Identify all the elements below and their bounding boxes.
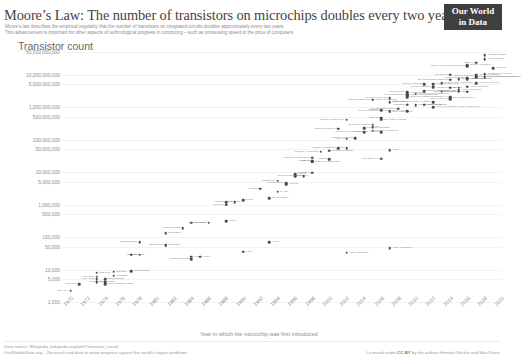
data-point[interactable] xyxy=(389,101,392,104)
data-point[interactable] xyxy=(389,110,392,113)
y-axis-tick-labels: 50,000,000,00010,000,000,0005,000,000,00… xyxy=(0,52,60,302)
data-point[interactable] xyxy=(233,201,236,204)
y-axis-tick-label: 5,000,000 xyxy=(38,179,60,184)
data-point[interactable] xyxy=(181,227,184,230)
data-point[interactable] xyxy=(311,172,314,175)
gridline xyxy=(62,237,502,238)
data-point[interactable] xyxy=(78,283,81,286)
data-point[interactable] xyxy=(449,97,452,100)
data-point[interactable] xyxy=(389,247,392,250)
data-point[interactable] xyxy=(302,175,305,178)
y-axis-tick-label: 100,000 xyxy=(42,235,60,240)
data-point-label: Itanium 2 Madison 6M xyxy=(320,118,345,121)
data-point[interactable] xyxy=(380,117,383,120)
gridline xyxy=(62,52,502,53)
gridline xyxy=(62,140,502,141)
data-point[interactable] xyxy=(328,150,331,153)
data-point[interactable] xyxy=(414,104,417,107)
data-point-label: Core i7 Ivy Bridge xyxy=(427,103,447,106)
data-point[interactable] xyxy=(138,241,141,244)
page-title: Moore’s Law: The number of transistors o… xyxy=(4,8,440,23)
data-point[interactable] xyxy=(371,126,374,129)
data-point[interactable] xyxy=(268,197,271,200)
data-point[interactable] xyxy=(389,149,392,152)
data-point[interactable] xyxy=(242,199,245,202)
data-point[interactable] xyxy=(164,232,167,235)
data-point[interactable] xyxy=(207,222,210,225)
data-point[interactable] xyxy=(371,123,374,126)
data-point[interactable] xyxy=(104,278,107,281)
data-point[interactable] xyxy=(311,157,314,160)
data-point[interactable] xyxy=(164,244,167,247)
data-point[interactable] xyxy=(466,78,469,81)
data-point-label: Atom xyxy=(392,149,398,152)
data-point-label: Core i7 Broadwell-U xyxy=(453,97,475,100)
license-name[interactable]: CC-BY xyxy=(397,350,411,355)
data-point[interactable] xyxy=(475,61,478,64)
data-point[interactable] xyxy=(397,107,400,110)
data-point[interactable] xyxy=(449,86,452,89)
data-point-label: Core 2 Duo Wolfdale xyxy=(384,118,407,121)
data-point[interactable] xyxy=(276,190,279,193)
footer-source: Data source: Wikipedia (wikipedia.org/wi… xyxy=(4,344,188,356)
our-world-in-data-logo[interactable]: Our World in Data xyxy=(444,4,502,30)
data-point[interactable] xyxy=(432,86,435,89)
data-point-label: Pentium III Coppermine xyxy=(315,160,341,163)
data-point[interactable] xyxy=(104,281,107,284)
data-point[interactable] xyxy=(285,182,288,185)
footer-source-line2[interactable]: OurWorldinData.org – Research and data t… xyxy=(4,350,188,356)
data-point[interactable] xyxy=(483,58,486,61)
data-point[interactable] xyxy=(423,103,426,106)
y-axis-tick-label: 50,000,000,000 xyxy=(26,50,60,55)
data-point[interactable] xyxy=(320,151,323,154)
data-point-label: Pentium 4 Willamette xyxy=(295,151,319,154)
data-point[interactable] xyxy=(406,90,409,93)
data-point[interactable] xyxy=(69,289,72,292)
data-point-label: ARM Cortex-A9 xyxy=(361,157,379,160)
data-point[interactable] xyxy=(225,203,228,206)
data-point[interactable] xyxy=(458,90,461,93)
data-point[interactable] xyxy=(466,85,469,88)
data-point[interactable] xyxy=(328,158,331,161)
data-point-label: Itanium 2 Poulson xyxy=(427,90,447,93)
data-point[interactable] xyxy=(380,157,383,160)
y-axis-tick-label: 100,000,000 xyxy=(33,137,60,142)
data-point[interactable] xyxy=(345,251,348,254)
data-point[interactable] xyxy=(112,271,115,274)
data-point-label: Motorola 68020 xyxy=(163,227,180,230)
data-point[interactable] xyxy=(138,253,141,256)
data-point-label: Motorola 6809 xyxy=(133,270,149,273)
data-point[interactable] xyxy=(492,67,495,70)
data-point-label: ARM 1 xyxy=(194,255,202,258)
data-point[interactable] xyxy=(483,54,486,57)
data-point[interactable] xyxy=(242,251,245,254)
data-point-label: Pentium 4 Prescott xyxy=(332,137,353,140)
data-point[interactable] xyxy=(345,118,348,121)
data-point[interactable] xyxy=(466,65,469,68)
data-point[interactable] xyxy=(371,98,374,101)
data-point[interactable] xyxy=(406,94,409,97)
data-point-label: AMD K6-III xyxy=(298,160,310,163)
data-point[interactable] xyxy=(406,110,409,113)
y-axis-tick-label: 50,000,000 xyxy=(36,147,60,152)
license-prefix: Licensed under xyxy=(366,350,397,355)
data-point[interactable] xyxy=(225,220,228,223)
data-point[interactable] xyxy=(354,137,357,140)
y-axis-tick-label: 1,000 xyxy=(48,300,60,305)
data-point-label: Apple A13 (iPhone 11 Pro) xyxy=(487,76,516,79)
data-point-label: Pentium II Deschutes xyxy=(277,175,301,178)
data-point-label: Intel 80486DX4 xyxy=(271,197,288,200)
data-point[interactable] xyxy=(380,131,383,134)
data-point[interactable] xyxy=(259,187,262,190)
gridline xyxy=(62,279,502,280)
y-axis-tick-label: 10,000 xyxy=(45,267,60,272)
data-point-label: Motorola 68030 xyxy=(189,222,206,225)
data-point[interactable] xyxy=(190,258,193,261)
y-axis-tick-label: 50,000 xyxy=(45,244,60,249)
data-point[interactable] xyxy=(440,82,443,85)
data-point[interactable] xyxy=(130,270,133,273)
data-point[interactable] xyxy=(311,160,314,163)
data-point-label: AMD K10 quad-core 2M L3 xyxy=(357,110,387,113)
data-point[interactable] xyxy=(268,241,271,244)
data-point[interactable] xyxy=(95,271,98,274)
